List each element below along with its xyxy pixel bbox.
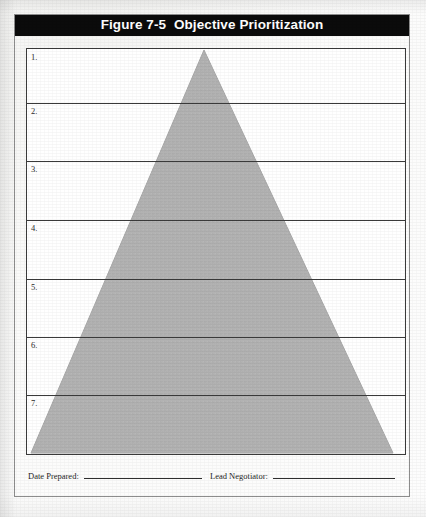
row-number-5: 5. (31, 283, 37, 292)
date-prepared-input[interactable] (84, 469, 202, 479)
table-row[interactable]: 3. (27, 162, 405, 220)
row-number-2: 2. (31, 107, 37, 116)
prioritization-worksheet: 1. 2. 3. 4. 5. 6. 7. (26, 48, 406, 455)
table-row[interactable]: 2. (27, 104, 405, 161)
date-prepared-field[interactable]: Date Prepared: (28, 469, 202, 481)
table-row[interactable]: 5. (27, 280, 405, 337)
table-row[interactable]: 1. (27, 49, 405, 103)
table-row[interactable]: 4. (27, 221, 405, 279)
worksheet-footer: Date Prepared: Lead Negotiator: (26, 468, 406, 484)
row-number-3: 3. (31, 165, 37, 174)
lead-negotiator-field[interactable]: Lead Negotiator: (210, 469, 395, 481)
lead-negotiator-input[interactable] (273, 469, 395, 479)
date-prepared-label: Date Prepared: (28, 472, 79, 481)
lead-negotiator-label: Lead Negotiator: (210, 472, 268, 481)
row-number-1: 1. (31, 53, 37, 62)
row-number-6: 6. (31, 341, 37, 350)
row-number-4: 4. (31, 224, 37, 233)
row-number-7: 7. (31, 399, 37, 408)
table-row[interactable]: 7. (27, 396, 405, 454)
table-row[interactable]: 6. (27, 338, 405, 395)
